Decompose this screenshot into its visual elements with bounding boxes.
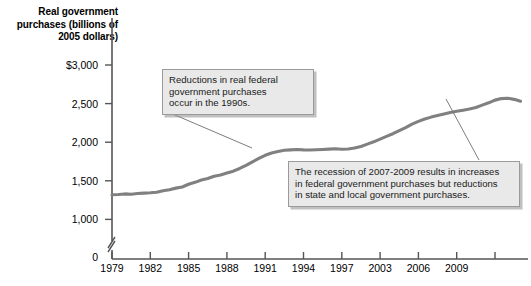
callout-1-line-1: Reductions in real federal: [169, 74, 307, 86]
callout-2-line-1: The recession of 2007-2009 results in in…: [295, 166, 513, 178]
callout-1-line-3: occur in the 1990s.: [169, 97, 307, 109]
callout-1-line-2: government purchases: [169, 86, 307, 98]
x-axis-ticks: [112, 252, 495, 259]
x-tick-label-2009: 2009: [434, 262, 480, 274]
callout-2-line-3: in state and local government purchases.: [295, 189, 513, 201]
annotation-callout-recession: The recession of 2007-2009 results in in…: [288, 161, 520, 207]
leader-line-1: [168, 112, 252, 148]
y-axis-ticks: [105, 65, 112, 219]
y-tick-label-1500: 1,500: [34, 175, 98, 187]
chart-figure: Real government purchases (billions of 2…: [0, 0, 531, 286]
y-tick-label-2000: 2,000: [34, 136, 98, 148]
y-tick-label-2500: 2,500: [34, 98, 98, 110]
y-tick-label-1000: 1,000: [34, 213, 98, 225]
y-tick-label-3000: $3,000: [34, 59, 98, 71]
axes: [108, 18, 528, 259]
annotation-callout-1990s: Reductions in real federal government pu…: [162, 69, 314, 115]
callout-2-line-2: in federal government purchases but redu…: [295, 178, 513, 190]
